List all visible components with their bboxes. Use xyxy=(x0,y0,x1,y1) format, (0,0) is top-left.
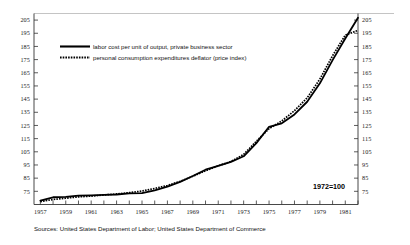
y-tick-label-left: 185 xyxy=(20,43,30,50)
y-tick-label-left: 85 xyxy=(24,174,30,181)
y-tick-label-right: 125 xyxy=(362,122,372,129)
source-note: Sources: United States Department of Lab… xyxy=(34,225,266,232)
y-tick-label-right: 175 xyxy=(362,56,372,63)
y-tick-label-left: 165 xyxy=(20,69,30,76)
y-tick-label-left: 145 xyxy=(20,95,30,102)
legend-label-pce-deflator: personal consumption expenditures deflat… xyxy=(93,54,246,61)
y-tick-label-left: 95 xyxy=(24,161,30,168)
y-tick-label-right: 195 xyxy=(362,29,372,36)
y-tick-label-right: 165 xyxy=(362,69,372,76)
y-tick-label-left: 115 xyxy=(21,135,30,142)
y-tick-label-left: 125 xyxy=(20,122,30,129)
y-tick-label-right: 145 xyxy=(362,95,372,102)
y-tick-label-left: 175 xyxy=(20,56,30,63)
y-tick-label-left: 155 xyxy=(20,82,30,89)
x-tick-label: 1971 xyxy=(212,208,225,215)
y-tick-label-right: 115 xyxy=(362,135,371,142)
index-base-annotation: 1972=100 xyxy=(313,182,345,191)
y-tick-label-left: 75 xyxy=(24,188,30,195)
y-tick-label-right: 155 xyxy=(362,82,372,89)
x-tick-label: 1957 xyxy=(34,208,47,215)
y-tick-label-left: 135 xyxy=(20,108,30,115)
x-tick-label: 1975 xyxy=(263,208,276,215)
y-tick-label-left: 195 xyxy=(20,29,30,36)
y-tick-label-right: 135 xyxy=(362,108,372,115)
x-tick-label: 1965 xyxy=(136,208,149,215)
x-tick-label: 1977 xyxy=(288,208,301,215)
y-tick-label-right: 105 xyxy=(362,148,372,155)
y-tick-label-right: 75 xyxy=(362,188,368,195)
x-tick-label: 1981 xyxy=(339,208,352,215)
y-tick-label-right: 95 xyxy=(362,161,368,168)
x-tick-label: 1979 xyxy=(313,208,326,215)
x-tick-label: 1963 xyxy=(110,208,123,215)
y-tick-label-right: 205 xyxy=(362,16,372,23)
y-tick-label-right: 185 xyxy=(362,43,372,50)
x-tick-label: 1967 xyxy=(161,208,174,215)
y-tick-label-left: 205 xyxy=(20,16,30,23)
x-tick-label: 1973 xyxy=(237,208,250,215)
x-tick-label: 1959 xyxy=(59,208,72,215)
x-tick-label: 1969 xyxy=(186,208,199,215)
y-tick-label-left: 105 xyxy=(20,148,30,155)
y-tick-label-right: 85 xyxy=(362,174,368,181)
chart-figure: 205195185175165155145135125115105958575 … xyxy=(0,0,410,245)
legend-label-labor-cost: labor cost per unit of output, private b… xyxy=(93,43,233,50)
x-tick-label: 1961 xyxy=(85,208,98,215)
